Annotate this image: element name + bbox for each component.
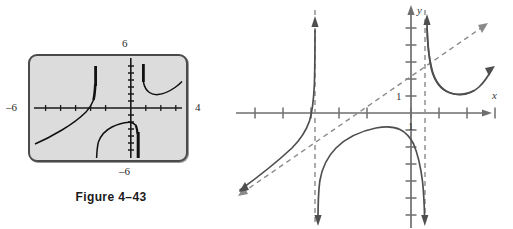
calculator-xmin-label: –6 <box>6 102 17 113</box>
sketch-figure: x y 1 1 <box>234 0 513 229</box>
slant-asymptote <box>242 26 484 193</box>
calculator-trace <box>35 64 182 158</box>
y-axis-label: y <box>416 4 422 16</box>
arrow-middle-branch-down-right <box>421 215 428 226</box>
arrow-left-branch-up <box>311 16 318 27</box>
y-unit-label: 1 <box>396 90 402 102</box>
curve-middle-branch <box>318 127 425 220</box>
x-unit-label: 1 <box>408 120 414 132</box>
sketch-axes <box>236 5 495 228</box>
curve-right-branch-lower <box>427 25 474 94</box>
curve-left-branch <box>240 30 315 190</box>
calculator-axes <box>34 58 182 158</box>
calculator-ymin-label: –6 <box>119 166 130 177</box>
sketch-plot: x y 1 1 <box>234 0 513 229</box>
sketch-curves <box>240 25 492 220</box>
arrow-right-branch-end <box>485 66 495 76</box>
sketch-asymptotes <box>242 10 484 222</box>
curve-arrowheads <box>239 14 495 226</box>
figure-caption: Figure 4–43 <box>0 190 222 204</box>
calculator-figure: 6 –6 –6 4 Figure 4–43 <box>0 0 230 229</box>
curve-right-branch <box>427 28 492 95</box>
slant-asymptote-arrow-right <box>478 23 488 33</box>
calculator-ymax-label: 6 <box>122 38 128 49</box>
calculator-xmax-label: 4 <box>195 102 201 113</box>
calculator-plot <box>30 56 186 160</box>
calculator-screen <box>28 54 188 162</box>
calculator-screen-wrapper <box>28 54 188 162</box>
x-axis-label: x <box>491 89 497 101</box>
